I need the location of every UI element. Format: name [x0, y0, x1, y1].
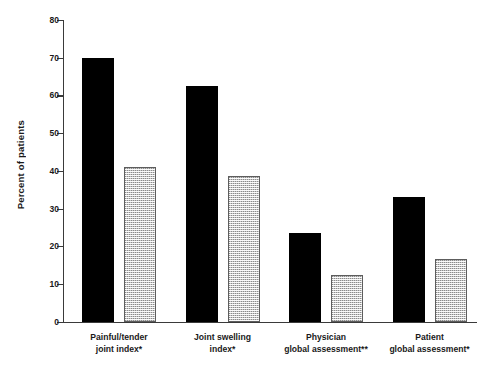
bar-gray-1	[124, 167, 156, 322]
y-axis-tick-label: 50	[50, 128, 59, 138]
bar-black-1	[82, 58, 114, 322]
bar-chart: Percent of patients 01020304050607080 Pa…	[0, 0, 486, 368]
y-axis-title: Percent of patients	[8, 0, 32, 330]
bar-black-3	[289, 233, 321, 322]
bar-black-2	[186, 86, 218, 322]
y-axis-tick-label: 70	[50, 53, 59, 63]
y-axis-line	[63, 20, 64, 323]
x-axis-line	[63, 322, 477, 323]
y-axis-tick-label: 60	[50, 90, 59, 100]
y-axis-tick-label: 0	[54, 317, 59, 327]
bar-gray-4	[435, 259, 467, 321]
y-axis-tick-label: 20	[50, 241, 59, 251]
y-axis-tick-label: 40	[50, 166, 59, 176]
x-axis-label-line: Patient	[355, 332, 486, 344]
x-axis-label-4: Patientglobal assessment*	[355, 332, 486, 355]
bar-gray-2	[228, 176, 260, 321]
plot-area: 01020304050607080	[63, 20, 477, 323]
y-axis-tick-label: 10	[50, 279, 59, 289]
y-axis-tick-label: 30	[50, 204, 59, 214]
bar-black-4	[393, 197, 425, 321]
x-axis-label-line: global assessment*	[355, 344, 486, 356]
y-axis-tick-label: 80	[50, 15, 59, 25]
bar-gray-3	[331, 275, 363, 321]
y-axis-title-text: Percent of patients	[15, 120, 26, 209]
